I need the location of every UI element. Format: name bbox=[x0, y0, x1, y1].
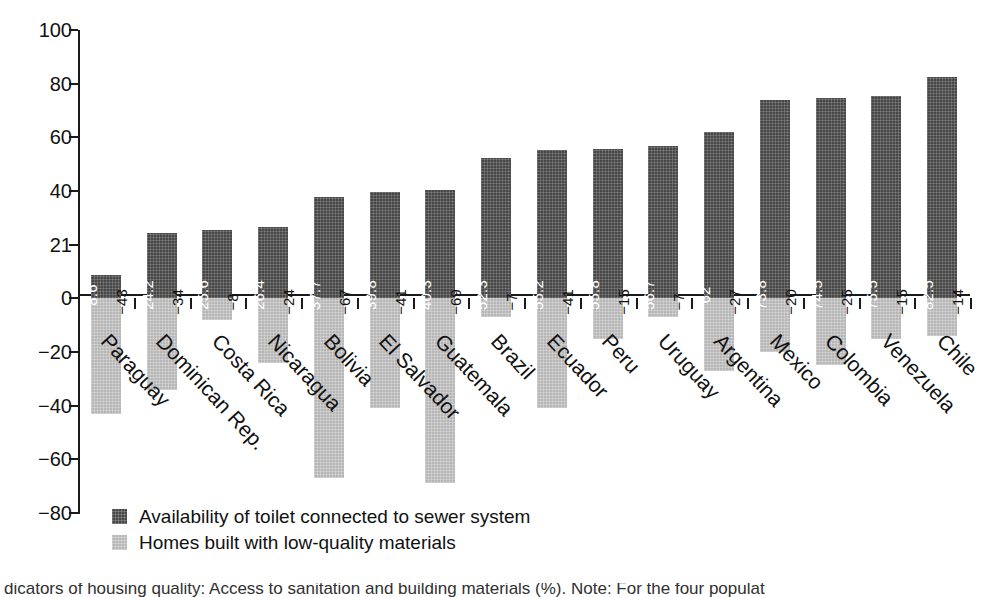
bar-value-label-sewer: 73.8 bbox=[760, 280, 775, 310]
legend-swatch-icon-low-quality bbox=[112, 535, 127, 550]
y-tick-label: −80 bbox=[38, 503, 72, 523]
bar-sewer-access: 73.8 bbox=[760, 100, 790, 298]
legend-item-low-quality: Homes built with low-quality materials bbox=[112, 529, 530, 555]
bar-value-label-sewer: 8.6 bbox=[91, 285, 106, 306]
bar-value-label-sewer: 39.8 bbox=[370, 280, 385, 310]
figure-caption: dicators of housing quality: Access to s… bbox=[0, 583, 986, 597]
bar-sewer-access: 26.4 bbox=[258, 227, 288, 298]
y-tick-label: 21 bbox=[50, 235, 72, 255]
x-tick-mark bbox=[970, 298, 972, 309]
bar-value-label-sewer: 52.3 bbox=[481, 280, 496, 310]
bar-value-label-low-quality: −7 bbox=[496, 294, 511, 311]
y-tick-label: 0 bbox=[61, 288, 72, 308]
bar-value-label-low-quality: −43 bbox=[106, 290, 121, 315]
bar-group: 74.5−25 bbox=[803, 30, 859, 513]
bar-sewer-access: 37.7 bbox=[314, 197, 344, 298]
bar-value-label-low-quality: −20 bbox=[775, 290, 790, 315]
bar-value-label-low-quality: −67 bbox=[329, 290, 344, 315]
bar-sewer-access: 25.6 bbox=[202, 230, 232, 299]
bar-group: 55.8−15 bbox=[580, 30, 636, 513]
bar-group: 73.8−20 bbox=[747, 30, 803, 513]
legend-item-sewer: Availability of toilet connected to sewe… bbox=[112, 503, 530, 529]
bar-sewer-access: 55.8 bbox=[593, 149, 623, 299]
bar-group: 62−27 bbox=[691, 30, 747, 513]
y-tick-label: −40 bbox=[38, 396, 72, 416]
bar-sewer-access: 40.3 bbox=[425, 190, 455, 298]
bar-sewer-access: 56.7 bbox=[648, 146, 678, 298]
legend-label-low-quality: Homes built with low-quality materials bbox=[139, 533, 456, 552]
bar-group: 37.7−67 bbox=[301, 30, 357, 513]
y-tick-label: 100 bbox=[39, 20, 72, 40]
bar-group: 52.3−7 bbox=[468, 30, 524, 513]
bar-group: 39.8−41 bbox=[357, 30, 413, 513]
bar-value-label-low-quality: −24 bbox=[273, 290, 288, 315]
bar-sewer-access: 75.5 bbox=[871, 96, 901, 299]
bar-group: 56.7−7 bbox=[636, 30, 692, 513]
figure-caption-text: dicators of housing quality: Access to s… bbox=[4, 583, 765, 597]
bar-group: 82.5−14 bbox=[914, 30, 970, 513]
bar-value-label-low-quality: −7 bbox=[663, 294, 678, 311]
bar-value-label-low-quality: −69 bbox=[440, 290, 455, 315]
bar-value-label-low-quality: −25 bbox=[831, 290, 846, 315]
plot-area: 100806040210−20−40−60−80 8.6−4324.2−3425… bbox=[78, 30, 970, 513]
y-tick-label: −60 bbox=[38, 449, 72, 469]
bar-sewer-access: 74.5 bbox=[816, 98, 846, 298]
legend-label-sewer: Availability of toilet connected to sewe… bbox=[139, 507, 530, 526]
bar-value-label-sewer: 62 bbox=[704, 287, 719, 304]
bar-sewer-access: 82.5 bbox=[927, 77, 957, 298]
bar-value-label-sewer: 37.7 bbox=[314, 280, 329, 310]
bar-value-label-sewer: 56.7 bbox=[648, 280, 663, 310]
bar-value-label-low-quality: −41 bbox=[385, 290, 400, 315]
bar-group: 75.5−15 bbox=[859, 30, 915, 513]
bar-value-label-sewer: 40.3 bbox=[425, 280, 440, 310]
bar-sewer-access: 39.8 bbox=[370, 192, 400, 299]
bar-sewer-access: 52.3 bbox=[481, 158, 511, 298]
bar-sewer-access: 55.2 bbox=[537, 150, 567, 298]
bar-value-label-sewer: 26.4 bbox=[258, 280, 273, 310]
bar-value-label-sewer: 55.2 bbox=[537, 280, 552, 310]
bar-value-label-sewer: 24.2 bbox=[147, 280, 162, 310]
bar-value-label-sewer: 25.6 bbox=[202, 280, 217, 310]
y-tick-label: 80 bbox=[50, 74, 72, 94]
bar-group: 55.2−41 bbox=[524, 30, 580, 513]
y-tick-label: 40 bbox=[50, 181, 72, 201]
chart-legend: Availability of toilet connected to sewe… bbox=[112, 503, 530, 555]
bar-group: 40.3−69 bbox=[413, 30, 469, 513]
bar-group: 8.6−43 bbox=[78, 30, 134, 513]
y-tick-label: −20 bbox=[38, 342, 72, 362]
bar-value-label-sewer: 74.5 bbox=[816, 280, 831, 310]
bar-value-label-low-quality: −41 bbox=[552, 290, 567, 315]
bar-value-label-low-quality: −15 bbox=[608, 290, 623, 315]
y-tick-label: 60 bbox=[50, 127, 72, 147]
bar-value-label-low-quality: −15 bbox=[886, 290, 901, 315]
bar-chart: 100806040210−20−40−60−80 8.6−4324.2−3425… bbox=[0, 0, 986, 597]
bar-group: 25.6−8 bbox=[190, 30, 246, 513]
bar-value-label-low-quality: −27 bbox=[719, 290, 734, 315]
bar-value-label-low-quality: −14 bbox=[942, 290, 957, 315]
bar-value-label-sewer: 55.8 bbox=[593, 280, 608, 310]
bar-value-label-sewer: 82.5 bbox=[927, 280, 942, 310]
bar-value-label-sewer: 75.5 bbox=[871, 280, 886, 310]
bar-value-label-low-quality: −8 bbox=[217, 294, 232, 311]
legend-swatch-icon-sewer bbox=[112, 509, 127, 524]
bar-group: 24.2−34 bbox=[134, 30, 190, 513]
bar-sewer-access: 62 bbox=[704, 132, 734, 298]
bar-value-label-low-quality: −34 bbox=[162, 290, 177, 315]
